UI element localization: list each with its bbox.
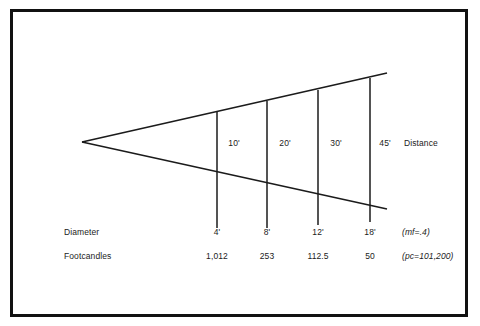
row-label-footcandles: Footcandles: [64, 251, 111, 261]
diameter-value-col-3: 12': [312, 227, 323, 237]
footcandles-value-col-1: 1,012: [206, 251, 228, 261]
annotation-maintenance-factor: (mf=.4): [402, 227, 430, 237]
annotation-peak-candela: (pc=101,200): [402, 251, 454, 261]
figure-canvas: 10' 20' 30' 45' Distance Diameter 4' 8' …: [0, 0, 480, 326]
footcandles-value-col-2: 253: [260, 251, 274, 261]
distance-label-col-3: 30': [330, 138, 341, 148]
footcandles-value-col-4: 50: [365, 251, 375, 261]
row-label-diameter: Diameter: [64, 227, 99, 237]
diameter-value-col-4: 18': [364, 227, 375, 237]
distance-label-col-2: 20': [279, 138, 290, 148]
distance-label-col-4: 45': [379, 138, 390, 148]
footcandles-value-col-3: 112.5: [307, 251, 328, 261]
diameter-value-col-1: 4': [214, 227, 221, 237]
diameter-value-col-2: 8': [264, 227, 271, 237]
distance-label-col-1: 10': [228, 138, 239, 148]
row-label-distance: Distance: [404, 138, 438, 148]
beam-cone-drawing: [0, 0, 480, 326]
cone-lower-edge: [82, 142, 387, 209]
cone-upper-edge: [82, 73, 387, 142]
